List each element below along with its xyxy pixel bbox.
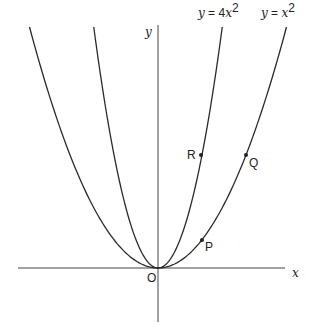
point-p-label: P — [205, 240, 213, 254]
parabola-diagram: y x O y = 4x2 y = x2 P Q R — [0, 0, 315, 326]
origin-label: O — [147, 271, 156, 285]
y-axis-label: y — [144, 25, 152, 39]
point-q-label: Q — [249, 156, 258, 170]
point-p-marker — [200, 238, 204, 242]
point-r-marker — [199, 153, 203, 157]
x-axis-label: x — [292, 266, 299, 280]
point-r-label: R — [187, 148, 196, 162]
equation-label-4x-squared: y = 4x2 — [197, 1, 239, 20]
equation-label-x-squared: y = x2 — [260, 1, 295, 20]
point-q-marker — [244, 153, 248, 157]
